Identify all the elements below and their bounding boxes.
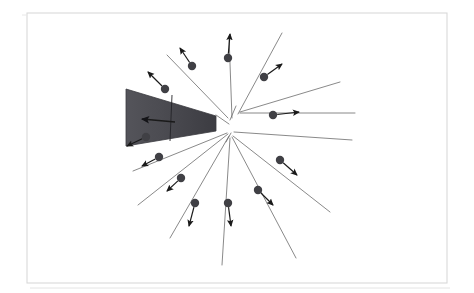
seed-point-p6 <box>276 156 284 164</box>
figure-root: Radial Voronoi expansion diagram Hand-dr… <box>0 0 474 293</box>
seed-point-p11 <box>155 153 163 161</box>
seed-point-p12 <box>142 133 150 141</box>
seed-point-p9 <box>191 199 199 207</box>
seed-point-p4 <box>260 73 268 81</box>
seed-point-p5 <box>269 111 277 119</box>
seed-point-p7 <box>254 186 262 194</box>
seed-point-p10 <box>177 174 185 182</box>
seed-point-p8 <box>224 199 232 207</box>
seed-point-p2 <box>188 62 196 70</box>
seed-point-p1 <box>161 85 169 93</box>
seed-point-p3 <box>224 54 232 62</box>
radial-voronoi-diagram: Radial Voronoi expansion diagram Hand-dr… <box>0 0 474 293</box>
